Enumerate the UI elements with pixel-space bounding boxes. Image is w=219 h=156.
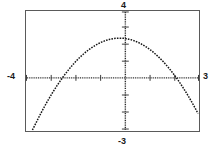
y-min-label: -3	[118, 136, 126, 146]
parabola-curve	[32, 38, 198, 130]
plot-frame	[25, 10, 200, 132]
graphing-calculator-screen: 4 -3 -4 3	[0, 0, 219, 156]
y-max-label: 4	[121, 0, 126, 10]
x-min-label: -4	[7, 71, 15, 81]
x-axis-ticks	[26, 75, 198, 81]
plot-canvas	[26, 11, 199, 131]
x-max-label: 3	[203, 71, 208, 81]
